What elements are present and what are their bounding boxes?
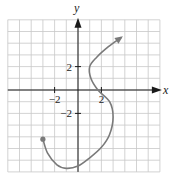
y-tick-label: −2: [60, 107, 72, 119]
x-tick-label: −2: [49, 93, 61, 105]
start-point-marker: [40, 137, 45, 142]
x-axis-label: x: [162, 83, 169, 97]
y-tick-label: 2: [67, 61, 73, 73]
x-axis-arrow-icon: [152, 87, 162, 94]
y-axis-arrow-icon: [75, 18, 82, 28]
x-tick-label: 2: [99, 93, 105, 105]
y-axis-label: y: [73, 1, 80, 15]
grid-lines: [8, 20, 160, 172]
end-arrow-icon: [114, 36, 123, 44]
parametric-curve-chart: −222−2 x y: [0, 0, 175, 182]
